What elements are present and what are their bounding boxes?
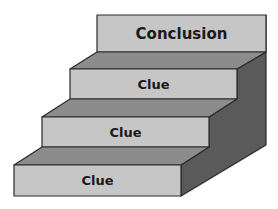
- step1-top-face: [14, 147, 209, 165]
- clue-label-1: Clue: [14, 165, 181, 196]
- clue-label-2: Clue: [42, 117, 209, 147]
- conclusion-label: Conclusion: [97, 15, 266, 52]
- staircase-diagram: Conclusion Clue Clue Clue: [0, 0, 278, 209]
- step2-top-face: [42, 99, 237, 117]
- clue-label-3: Clue: [70, 69, 237, 99]
- step3-top-face: [70, 52, 266, 69]
